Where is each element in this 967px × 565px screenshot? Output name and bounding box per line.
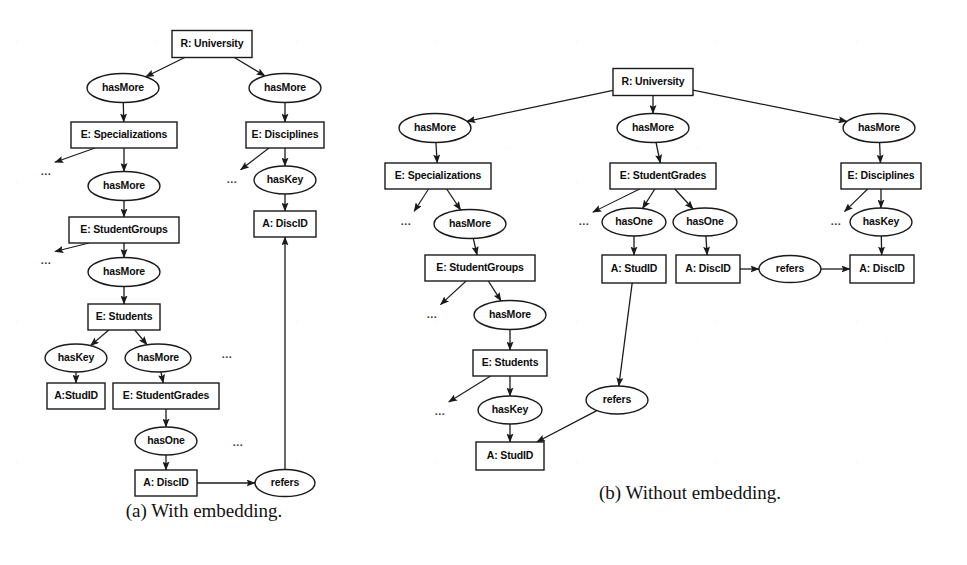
node-a-discid-bottom: A: DiscID [135, 470, 197, 496]
node-label-b-hasmore-right: hasMore [858, 121, 900, 133]
edge-a-students-to-a-haskey-2 [90, 330, 108, 346]
node-label-b-hasmore-3: hasMore [489, 308, 531, 320]
node-label-a-discid-top: A: DiscID [262, 217, 308, 229]
edge-b-studentgroups-to-b-hasmore-3 [488, 281, 501, 301]
node-b-hasmore-mid: hasMore [617, 114, 689, 143]
node-label-a-root: R: University [181, 37, 244, 49]
node-a-refers: refers [255, 470, 315, 497]
node-a-specializations: E: Specializations [71, 122, 177, 148]
node-b-haskey-left: hasKey [478, 396, 542, 424]
node-b-refers-mid: refers [586, 386, 648, 414]
node-b-hasmore-2: hasMore [434, 210, 506, 239]
node-label-b-root: R: University [622, 75, 685, 87]
node-a-hasmore-1: hasMore [87, 74, 159, 103]
diagram-b-ellipsis-mark-4: ... [435, 405, 446, 417]
node-label-b-disciplines: E: Disciplines [848, 169, 915, 181]
edge-b-hasone-2-to-b-discid-mid [706, 236, 707, 255]
node-b-hasone-1: hasOne [602, 208, 666, 236]
edge-a-root-to-a-hasmore-1 [146, 58, 185, 77]
node-a-hasone: hasOne [135, 427, 197, 455]
node-label-b-hasone-1: hasOne [615, 215, 653, 227]
node-b-hasmore-right: hasMore [843, 114, 915, 143]
edge-a-root-to-a-hasmore-2 [234, 58, 265, 76]
node-label-a-studentgrades: E: StudentGrades [123, 389, 210, 401]
edge-b-root-to-b-hasmore-right [693, 90, 847, 121]
diagram-a-ellipsis-mark-2: ... [227, 173, 238, 185]
node-label-b-hasmore-2: hasMore [449, 217, 491, 229]
diagram-a-ellipsis-mark-3: ... [222, 348, 233, 360]
node-label-a-disciplines: E: Disciplines [252, 128, 319, 140]
edge-b-refers-mid-to-b-studid-left [537, 411, 597, 442]
node-label-a-haskey-2: hasKey [58, 351, 95, 363]
edge-a-students-to-a-hasmore-5 [135, 330, 147, 345]
node-label-a-hasmore-2: hasMore [264, 81, 306, 93]
node-b-discid-right: A: DiscID [850, 255, 914, 283]
node-b-discid-mid: A: DiscID [676, 255, 740, 283]
subfigure-caption-a: (a) With embedding. [126, 500, 283, 522]
subfigure-caption-b: (b) Without embedding. [599, 482, 781, 504]
edge-b-hasmore-left-to-b-specializations [436, 143, 437, 164]
diagram-b-ellipsis-edge-0 [414, 189, 428, 211]
edge-b-studentgrades-to-b-hasone-1 [643, 189, 655, 209]
node-a-studentgrades: E: StudentGrades [113, 383, 219, 409]
node-label-b-discid-right: A: DiscID [859, 262, 905, 274]
node-b-disciplines: E: Disciplines [841, 163, 921, 189]
diagram-a-ellipsis-mark-4: ... [233, 436, 244, 448]
node-label-a-studentgroups: E: StudentGroups [80, 223, 168, 235]
node-a-students: E: Students [88, 304, 160, 330]
node-label-b-haskey-left: hasKey [492, 403, 529, 415]
edge-b-studentgrades-to-b-hasone-2 [675, 189, 693, 209]
diagram-a-nodes: R: UniversityhasMorehasMoreE: Specializa… [45, 31, 324, 497]
diagram-a-ellipsis-mark-0: ... [41, 165, 52, 177]
edge-b-specializations-to-b-hasmore-2 [447, 189, 461, 210]
node-a-hasmore-5: hasMore [125, 344, 191, 372]
node-b-studentgroups: E: StudentGroups [425, 255, 535, 281]
node-label-b-discid-mid: A: DiscID [685, 262, 731, 274]
diagram-a-ellipsis-edge-2 [241, 148, 269, 170]
edge-b-studid-mid-to-b-refers-mid [619, 283, 632, 386]
node-label-b-studid-left: A: StudID [487, 449, 534, 461]
diagram-a-ellipsis-edge-1 [55, 243, 89, 252]
node-label-a-specializations: E: Specializations [81, 128, 168, 140]
node-label-a-studid: A:StudID [54, 389, 98, 401]
diagram-b-ellipsis-mark-2: ... [831, 215, 842, 227]
node-b-hasone-2: hasOne [673, 208, 737, 236]
node-b-students: E: Students [473, 350, 547, 376]
diagram-a-ellipsis-mark-1: ... [41, 254, 52, 266]
node-b-hasmore-3: hasMore [474, 301, 546, 330]
node-a-hasmore-2: hasMore [249, 74, 321, 103]
diagram-b-ellipsis-mark-0: ... [401, 215, 412, 227]
diagram-b-ellipsis-edge-4 [449, 376, 491, 402]
node-label-a-students: E: Students [96, 310, 153, 322]
diagram-b-ellipsis-mark-1: ... [579, 215, 590, 227]
figure-root: R: UniversityhasMorehasMoreE: Specializa… [0, 0, 967, 565]
node-label-b-haskey-right: hasKey [863, 215, 900, 227]
diagram-b-ellipsis-edge-2 [844, 189, 867, 212]
node-label-b-students: E: Students [482, 356, 539, 368]
node-a-hasmore-4: hasMore [88, 258, 160, 287]
node-label-a-hasmore-3: hasMore [103, 179, 145, 191]
node-label-b-hasmore-left: hasMore [414, 121, 456, 133]
node-a-haskey-2: hasKey [45, 344, 107, 372]
node-label-a-haskey-1: hasKey [267, 173, 304, 185]
node-b-specializations: E: Specializations [385, 163, 491, 189]
diagram-b-ellipsis-mark-3: ... [427, 308, 438, 320]
diagram-a-ellipsis-edge-0 [55, 148, 95, 162]
node-b-refers-right: refers [759, 256, 821, 283]
edge-b-hasmore-2-to-b-studentgroups [473, 238, 477, 255]
node-label-a-hasone: hasOne [147, 434, 185, 446]
node-label-b-hasmore-mid: hasMore [632, 121, 674, 133]
node-a-disciplines: E: Disciplines [246, 122, 324, 148]
node-label-b-specializations: E: Specializations [395, 169, 482, 181]
node-a-haskey-1: hasKey [254, 166, 316, 194]
edge-a-hasmore-5-to-a-studentgrades [161, 372, 163, 383]
node-b-studid-mid: A: StudID [602, 255, 666, 283]
node-label-a-hasmore-1: hasMore [102, 81, 144, 93]
node-b-root: R: University [613, 69, 693, 96]
node-label-b-refers-right: refers [776, 262, 805, 274]
node-a-hasmore-3: hasMore [88, 172, 160, 201]
node-b-haskey-right: hasKey [850, 208, 912, 236]
node-b-studid-left: A: StudID [476, 442, 544, 470]
node-label-b-hasone-2: hasOne [686, 215, 724, 227]
node-a-studid: A:StudID [47, 383, 105, 409]
